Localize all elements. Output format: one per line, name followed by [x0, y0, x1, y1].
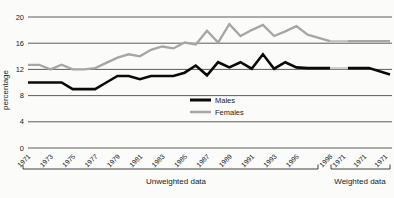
x-tick-label-1985: 1985	[173, 153, 189, 169]
y-axis-tick-labels: 048121620	[16, 13, 24, 153]
y-tick-label-12: 12	[16, 65, 24, 74]
y-tick-label-20: 20	[16, 13, 24, 22]
x-tick-label-1977: 1977	[83, 153, 99, 169]
x-axis-tick-labels: 1971197319751977197919811983198519871989…	[16, 153, 389, 169]
x-tick-label-1991: 1991	[240, 153, 256, 169]
x-tick-label-weighted-2: 1971	[352, 153, 368, 169]
x-tick-label-1971: 1971	[16, 153, 32, 169]
weighted-data-label: Weighted data	[334, 177, 386, 186]
unweighted-data-label: Unweighted data	[146, 177, 207, 186]
x-tick-label-1987: 1987	[195, 153, 211, 169]
x-tick-label-1998: 1998	[318, 153, 334, 169]
x-tick-label-weighted-1: 1971	[331, 153, 347, 169]
y-tick-label-4: 4	[20, 117, 24, 126]
y-tick-label-8: 8	[20, 91, 24, 100]
y-tick-label-16: 16	[16, 39, 24, 48]
x-tick-label-1993: 1993	[262, 153, 278, 169]
x-tick-label-weighted-3: 1971	[373, 153, 389, 169]
x-tick-label-1989: 1989	[217, 153, 233, 169]
x-tick-label-1973: 1973	[38, 153, 54, 169]
x-tick-label-1983: 1983	[150, 153, 166, 169]
legend-label-females: Females	[215, 108, 244, 117]
x-tick-label-1979: 1979	[106, 153, 122, 169]
males-line-unweighted	[28, 54, 330, 89]
y-tick-label-0: 0	[20, 144, 24, 153]
x-tick-label-1981: 1981	[128, 153, 144, 169]
chart-canvas: 048121620percentage197119731975197719791…	[0, 0, 394, 198]
x-tick-label-1995: 1995	[285, 153, 301, 169]
gridlines	[28, 17, 392, 148]
y-axis-title: percentage	[1, 69, 10, 110]
legend-label-males: Males	[215, 96, 235, 105]
section-gap-bridge	[330, 41, 348, 68]
x-tick-label-1975: 1975	[61, 153, 77, 169]
line-chart-figure: 048121620percentage197119731975197719791…	[0, 0, 394, 198]
legend: MalesFemales	[190, 96, 244, 117]
